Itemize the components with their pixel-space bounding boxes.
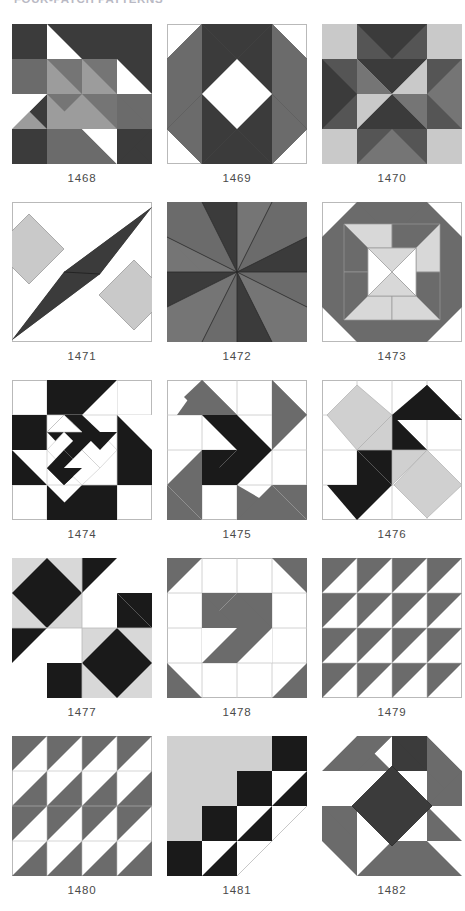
- quilt-block-1480: [12, 736, 152, 876]
- block-caption: 1475: [167, 528, 307, 540]
- block-caption: 1482: [322, 884, 462, 896]
- block-cell: 1471: [12, 202, 167, 380]
- block-cell: 1474: [12, 380, 167, 558]
- block-caption: 1472: [167, 350, 307, 362]
- block-caption: 1480: [12, 884, 152, 896]
- block-cell: 1477: [12, 558, 167, 736]
- quilt-block-1474: [12, 380, 152, 520]
- quilt-block-1471: [12, 202, 152, 342]
- block-caption: 1468: [12, 172, 152, 184]
- block-caption: 1469: [167, 172, 307, 184]
- quilt-block-1477: [12, 558, 152, 698]
- page-title: FOUR-PATCH PATTERNS: [14, 0, 163, 5]
- block-cell: 1472: [167, 202, 322, 380]
- block-caption: 1478: [167, 706, 307, 718]
- block-caption: 1473: [322, 350, 462, 362]
- block-caption: 1474: [12, 528, 152, 540]
- block-caption: 1481: [167, 884, 307, 896]
- block-caption: 1476: [322, 528, 462, 540]
- quilt-block-1470: [322, 24, 462, 164]
- quilt-block-1482: [322, 736, 462, 876]
- quilt-block-1475: [167, 380, 307, 520]
- quilt-block-1478: [167, 558, 307, 698]
- quilt-block-1469: [167, 24, 307, 164]
- quilt-block-1479: [322, 558, 462, 698]
- block-cell: 1480: [12, 736, 167, 911]
- quilt-block-1473: [322, 202, 462, 342]
- block-cell: 1476: [322, 380, 465, 558]
- block-cell: 1473: [322, 202, 465, 380]
- block-cell: 1478: [167, 558, 322, 736]
- block-caption: 1471: [12, 350, 152, 362]
- quilt-block-1476: [322, 380, 462, 520]
- block-cell: 1469: [167, 24, 322, 202]
- block-cell: 1468: [12, 24, 167, 202]
- block-cell: 1479: [322, 558, 465, 736]
- block-caption: 1470: [322, 172, 462, 184]
- block-grid: 1468: [0, 24, 465, 911]
- quilt-block-1472: [167, 202, 307, 342]
- block-cell: 1481: [167, 736, 322, 911]
- block-caption: 1477: [12, 706, 152, 718]
- quilt-block-1468: [12, 24, 152, 164]
- block-cell: 1475: [167, 380, 322, 558]
- block-cell: 1482: [322, 736, 465, 911]
- block-cell: 1470: [322, 24, 465, 202]
- quilt-block-1481: [167, 736, 307, 876]
- block-caption: 1479: [322, 706, 462, 718]
